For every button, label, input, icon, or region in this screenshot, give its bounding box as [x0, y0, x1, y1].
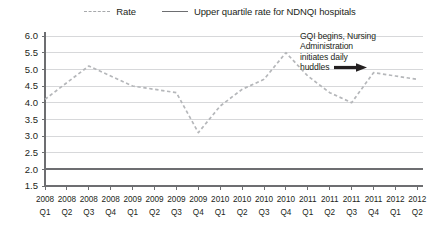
y-tick-label: 1.5 — [25, 180, 38, 191]
x-tick-label-quarter: Q2 — [149, 208, 160, 217]
y-tick-label: 5.0 — [25, 64, 38, 75]
x-tick-label-quarter: Q1 — [40, 208, 51, 217]
x-tick-label-year: 2009 — [189, 195, 208, 204]
x-tick-label-quarter: Q3 — [346, 208, 357, 217]
x-tick-label-quarter: Q1 — [127, 208, 138, 217]
annotation-line-3: initiates daily — [300, 52, 436, 62]
y-tick-label: 5.5 — [25, 47, 38, 58]
x-tick-label-quarter: Q3 — [83, 208, 94, 217]
x-tick-label-quarter: Q3 — [259, 208, 270, 217]
x-tick-label-year: 2011 — [365, 195, 383, 204]
x-tick-label-quarter: Q2 — [237, 208, 248, 217]
annotation-line-1: GQI begins, Nursing — [300, 31, 436, 41]
y-tick-label: 3.5 — [25, 114, 38, 125]
x-tick-label-quarter: Q2 — [61, 208, 72, 217]
x-tick-label-quarter: Q4 — [105, 208, 116, 217]
x-tick-label-quarter: Q2 — [412, 208, 423, 217]
annotation-line-4-row: huddles — [300, 62, 436, 72]
x-tick-label-year: 2010 — [233, 195, 252, 204]
x-tick-label-year: 2008 — [58, 195, 77, 204]
y-tick-label: 3.0 — [25, 130, 38, 141]
x-axis-tick-marks — [45, 186, 417, 190]
x-tick-label-quarter: Q3 — [171, 208, 182, 217]
x-tick-label-year: 2009 — [123, 195, 142, 204]
x-tick-label-year: 2011 — [343, 195, 361, 204]
x-tick-label-quarter: Q4 — [280, 208, 291, 217]
x-tick-label-year: 2010 — [255, 195, 274, 204]
y-tick-label: 2.0 — [25, 164, 38, 175]
y-tick-label: 4.5 — [25, 80, 38, 91]
x-tick-label-year: 2008 — [80, 195, 99, 204]
annotation-line-4: huddles — [300, 62, 329, 72]
x-tick-label-year: 2009 — [145, 195, 164, 204]
x-axis-tick-labels: 2008Q12008Q22008Q32008Q42009Q12009Q22009… — [36, 195, 427, 217]
x-tick-label-quarter: Q1 — [390, 208, 401, 217]
x-tick-label-quarter: Q1 — [215, 208, 226, 217]
right-arrow-icon — [334, 63, 368, 72]
x-tick-label-quarter: Q4 — [193, 208, 204, 217]
x-tick-label-year: 2011 — [321, 195, 339, 204]
x-tick-label-year: 2010 — [211, 195, 230, 204]
x-tick-label-year: 2012 — [408, 195, 427, 204]
x-tick-label-year: 2010 — [277, 195, 296, 204]
y-tick-label: 6.0 — [25, 30, 38, 41]
x-tick-label-year: 2012 — [386, 195, 405, 204]
x-tick-label-quarter: Q4 — [368, 208, 379, 217]
intervention-annotation: GQI begins, Nursing Administration initi… — [300, 31, 436, 73]
annotation-line-2: Administration — [300, 41, 436, 51]
x-tick-label-quarter: Q2 — [324, 208, 335, 217]
x-tick-label-year: 2008 — [102, 195, 121, 204]
x-tick-label-quarter: Q1 — [302, 208, 313, 217]
y-tick-label: 2.5 — [25, 147, 38, 158]
x-tick-label-year: 2008 — [36, 195, 55, 204]
x-tick-label-year: 2009 — [167, 195, 186, 204]
x-tick-label-year: 2011 — [299, 195, 317, 204]
rate-line-chart: Rate Upper quartile rate for NDNQI hospi… — [0, 0, 440, 236]
y-axis-tick-labels: 6.05.55.04.54.03.53.02.52.01.5 — [25, 30, 38, 191]
y-tick-label: 4.0 — [25, 97, 38, 108]
